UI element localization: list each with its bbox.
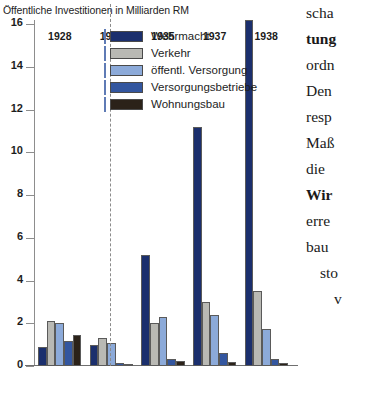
- y-axis-tick-mark: [26, 195, 34, 196]
- legend-rule-icon: [104, 63, 106, 78]
- bar: [228, 362, 237, 366]
- y-axis-tick-mark: [26, 110, 34, 111]
- legend-label: Wohnungsbau: [151, 98, 225, 110]
- body-text-line: tung: [300, 26, 369, 52]
- bar: [55, 323, 64, 366]
- bar: [107, 343, 116, 367]
- legend-item: Wohnungsbau: [104, 96, 257, 112]
- y-axis-tick-label: 4: [17, 273, 23, 285]
- y-axis-tick-label: 8: [17, 187, 23, 199]
- y-axis-tick-label: 2: [17, 315, 23, 327]
- chart-panel: Öffentliche Investitionen in Milliarden …: [0, 0, 300, 411]
- body-text-line: ordn: [300, 52, 369, 78]
- y-axis-tick-label: 10: [11, 144, 23, 156]
- bar: [210, 315, 219, 366]
- legend-rule-icon: [104, 80, 106, 95]
- legend-label: Versorgungsbetriebe: [151, 81, 257, 93]
- chart-title: Öffentliche Investitionen in Milliarden …: [3, 4, 189, 16]
- y-axis-tick-label: 16: [11, 16, 23, 28]
- bar: [98, 338, 107, 366]
- y-axis-tick-mark: [26, 238, 34, 239]
- bar: [271, 359, 280, 366]
- legend-item: Wehrmacht: [104, 28, 257, 44]
- body-text-line: erre: [300, 208, 369, 234]
- legend-item: öffentl. Versorgung: [104, 62, 257, 78]
- bar: [90, 345, 99, 366]
- body-text-column: schatungordnDenrespMaßdieWirerrebaustov: [300, 0, 369, 411]
- legend-label: Wehrmacht: [151, 30, 210, 42]
- y-axis-tick-mark: [26, 323, 34, 324]
- bar: [262, 329, 271, 366]
- legend-label: öffentl. Versorgung: [151, 64, 247, 76]
- y-axis-tick-mark: [26, 67, 34, 68]
- body-text-line: Maß: [300, 130, 369, 156]
- bar: [193, 127, 202, 366]
- y-axis-tick-label: 12: [11, 102, 23, 114]
- bar: [116, 363, 125, 366]
- bar: [47, 321, 56, 366]
- body-text-line: sto: [300, 260, 369, 286]
- y-axis-tick-label: 14: [11, 59, 23, 71]
- y-axis-tick-mark: [26, 24, 34, 25]
- bar: [176, 361, 185, 366]
- body-text-line: scha: [300, 0, 369, 26]
- legend-swatch: [110, 99, 143, 110]
- body-text-line: v: [300, 286, 369, 312]
- body-text-line: bau: [300, 234, 369, 260]
- bar: [150, 323, 159, 366]
- legend-rule-icon: [104, 46, 106, 61]
- body-text-line: die: [300, 156, 369, 182]
- y-axis-tick-mark: [26, 366, 34, 367]
- body-text-line: resp: [300, 104, 369, 130]
- x-axis-label: 1928: [34, 30, 86, 42]
- bar: [159, 317, 168, 366]
- bar-group: [38, 24, 81, 366]
- bar: [279, 363, 288, 366]
- bar: [38, 347, 47, 366]
- body-text-line: Den: [300, 78, 369, 104]
- legend-rule-icon: [104, 97, 106, 112]
- legend-swatch: [110, 65, 143, 76]
- legend-item: Versorgungsbetriebe: [104, 79, 257, 95]
- legend-swatch: [110, 48, 143, 59]
- y-axis-tick-mark: [26, 281, 34, 282]
- legend-label: Verkehr: [151, 47, 191, 59]
- bar: [141, 255, 150, 366]
- y-axis-tick-mark: [26, 152, 34, 153]
- bar: [202, 302, 211, 366]
- bar: [124, 364, 133, 366]
- y-axis-tick-label: 6: [17, 230, 23, 242]
- bar: [64, 341, 73, 366]
- body-text-line: Wir: [300, 182, 369, 208]
- bar: [219, 353, 228, 366]
- chart-legend: WehrmachtVerkehröffentl. VersorgungVerso…: [104, 28, 257, 112]
- bar: [253, 291, 262, 366]
- legend-rule-icon: [104, 29, 106, 44]
- y-axis-tick-label: 0: [17, 358, 23, 370]
- legend-swatch: [110, 82, 143, 93]
- legend-swatch: [110, 31, 143, 42]
- bar: [167, 359, 176, 366]
- bar: [73, 335, 82, 366]
- legend-item: Verkehr: [104, 45, 257, 61]
